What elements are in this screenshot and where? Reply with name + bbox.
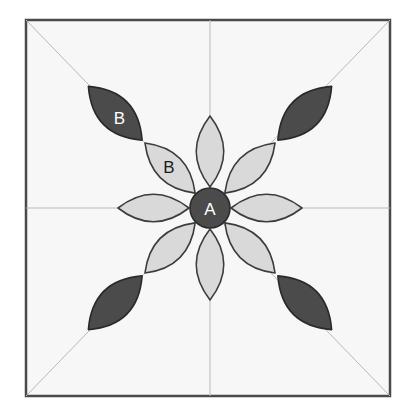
inner-petal-nw-label: B [163,158,174,177]
outer-petal-nw-label: B [114,109,125,128]
rosette-figure: A BB [0,0,414,417]
rosette-canvas: A BB [0,0,414,417]
center-label-a: A [204,200,216,219]
